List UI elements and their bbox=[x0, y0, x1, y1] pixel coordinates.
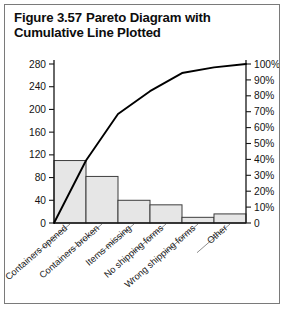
y2-tick-label-6: 60% bbox=[254, 122, 274, 133]
figure-container: Figure 3.57Pareto Diagram with Cumulativ… bbox=[4, 4, 280, 304]
y-tick-label-0: 0 bbox=[40, 218, 46, 229]
y2-tick-label-9: 90% bbox=[254, 75, 274, 86]
y2-tick-label-2: 20% bbox=[254, 186, 274, 197]
pareto-chart: 04080120160200240280010%20%30%40%50%60%7… bbox=[5, 5, 280, 304]
y2-tick-label-10: 100% bbox=[254, 59, 280, 70]
bar-2 bbox=[86, 176, 118, 223]
y-tick-label-5: 200 bbox=[29, 104, 46, 115]
y2-tick-label-3: 30% bbox=[254, 170, 274, 181]
y2-tick-label-5: 50% bbox=[254, 138, 274, 149]
y2-tick-label-1: 10% bbox=[254, 202, 274, 213]
bar-5 bbox=[182, 217, 214, 223]
y-tick-label-4: 160 bbox=[29, 127, 46, 138]
y2-tick-label-7: 70% bbox=[254, 106, 274, 117]
y-tick-label-2: 80 bbox=[35, 172, 47, 183]
bar-6 bbox=[214, 214, 246, 223]
category-label-6: Other bbox=[205, 223, 229, 246]
y-tick-label-1: 40 bbox=[35, 195, 47, 206]
y-tick-label-6: 240 bbox=[29, 81, 46, 92]
y2-tick-label-8: 80% bbox=[254, 90, 274, 101]
y2-tick-label-0: 0 bbox=[254, 218, 260, 229]
y-tick-label-3: 120 bbox=[29, 149, 46, 160]
y2-tick-label-4: 40% bbox=[254, 154, 274, 165]
bar-3 bbox=[118, 200, 150, 223]
category-label-2: Containers broken bbox=[37, 223, 101, 280]
y-tick-label-7: 280 bbox=[29, 59, 46, 70]
bar-4 bbox=[150, 205, 182, 223]
